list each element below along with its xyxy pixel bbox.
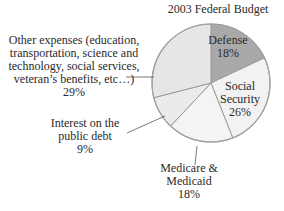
leader-line-interest-on-the-public-debt [127,116,165,133]
slice-percent: 9% [77,142,93,156]
slice-label-line: transportation, science and [10,46,138,60]
slice-label-line: Other expenses (education, [9,33,139,47]
slice-percent: 26% [229,105,251,119]
pie-chart: 2003 Federal Budget Defense18%SocialSecu… [0,0,284,211]
slice-label-line: Medicaid [166,174,211,188]
slice-label-line: technology, social services, [8,59,139,73]
slice-percent: 29% [63,85,85,99]
slice-label-line: Social [225,79,256,93]
chart-title: 2003 Federal Budget [168,2,269,16]
slice-label-line: veteran’s benefits, etc…) [14,72,134,86]
slice-label-line: Interest on the [51,116,120,130]
slice-label-interest-on-the-public-debt: Interest on thepublic debt9% [51,116,120,156]
slice-label-other-expenses: Other expenses (education,transportation… [8,33,139,99]
slice-label-line: Defense [208,33,247,47]
slice-label-line: public debt [58,129,112,143]
slice-label-line: Medicare & [160,161,218,175]
slice-percent: 18% [217,46,239,60]
slice-label-medicare-medicaid: Medicare &Medicaid18% [160,161,218,201]
slice-label-line: Security [220,92,260,106]
slice-percent: 18% [178,187,200,201]
